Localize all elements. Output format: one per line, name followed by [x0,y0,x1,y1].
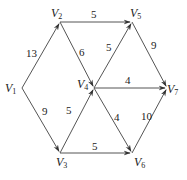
node-label-v2: V2 [51,6,62,21]
edge-weight-label: 13 [26,47,38,59]
node-label-v3: V3 [56,155,67,170]
edge-weight-label: 6 [79,46,85,58]
edge-v5-v7 [132,22,166,86]
edge-weight-label: 5 [92,140,98,152]
directed-weighted-graph: 1395655449510 V1V2V3V4V5V6V7 [0,0,187,180]
edge-weight-label: 5 [91,8,97,20]
edge-weight-label: 9 [42,105,48,117]
edge-v1-v3 [22,88,59,151]
edge-weight-label: 4 [114,111,120,123]
edge-weight-label: 5 [66,104,72,116]
weight-label-layer: 1395655449510 [26,8,157,152]
node-label-v4: V4 [77,77,88,92]
edge-v4-v6 [94,88,131,151]
edge-weight-label: 5 [106,41,112,53]
edge-layer [22,22,166,153]
node-label-v1: V1 [5,81,16,96]
node-label-v6: V6 [134,155,145,170]
node-label-v5: V5 [130,6,141,21]
edge-weight-label: 10 [141,110,153,122]
edge-v3-v4 [60,90,93,153]
edge-weight-label: 9 [151,39,157,51]
node-label-v7: V7 [167,82,178,97]
edge-weight-label: 4 [125,74,131,86]
